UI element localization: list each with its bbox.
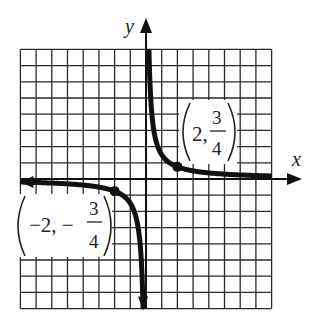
label-denominator: 4 [212,138,222,159]
x-axis-label: x [291,148,301,170]
label-x-value: −2, − [29,213,74,237]
point-2-3/4 [172,162,182,172]
point-neg2-neg3/4 [110,186,120,196]
y-axis-label: y [123,15,134,38]
y-axis-arrow-icon [140,18,152,33]
hyperbola-graph: x y 2, 3 4 −2, − 3 4 [0,0,315,322]
curve-arrow-left-icon [20,176,33,188]
label-numerator: 3 [212,107,222,128]
label-x-value: 2, [192,122,208,146]
x-axis-arrow-icon [287,173,302,185]
label-numerator: 3 [89,198,99,219]
label-denominator: 4 [89,231,99,252]
